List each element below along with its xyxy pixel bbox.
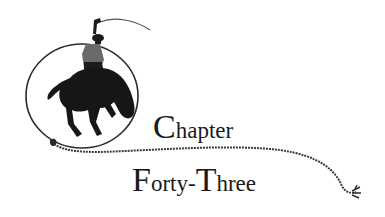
whip-icon — [100, 19, 150, 30]
number-rest-2: hree — [216, 171, 256, 196]
number-initial-2: T — [196, 161, 217, 198]
chapter-initial: C — [153, 108, 176, 145]
chapter-label: Chapter — [153, 110, 233, 144]
chapter-number: Forty-Three — [132, 163, 256, 197]
bucking-horse-icon — [47, 68, 134, 137]
chapter-rest: hapter — [176, 118, 233, 143]
number-rest-1: orty- — [151, 171, 196, 196]
number-initial-1: F — [132, 161, 151, 198]
rope-end-fray-icon — [352, 185, 361, 198]
